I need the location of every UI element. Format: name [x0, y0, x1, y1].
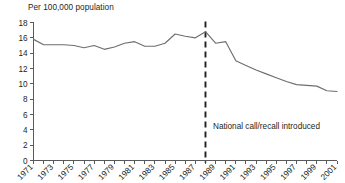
data-series-line: [34, 32, 338, 92]
x-tick-label: 1999: [299, 162, 319, 182]
y-tick-label: 4: [23, 126, 28, 135]
y-tick-label: 8: [23, 95, 28, 104]
x-tick-label: 1973: [36, 162, 56, 182]
x-tick-label: 1971: [16, 162, 36, 182]
x-tick-label: 1979: [97, 162, 117, 182]
x-tick-label: 1981: [117, 162, 137, 182]
x-tick-label: 1997: [279, 162, 299, 182]
y-axis: 024681012141618: [18, 19, 33, 166]
y-tick-label: 18: [18, 19, 28, 28]
annotation-national-call-recall: National call/recall introduced: [213, 122, 320, 131]
x-tick-label: 1991: [218, 162, 238, 182]
x-tick-label: 1977: [76, 162, 96, 182]
chart-plot-area: 024681012141618 197119731975197719791981…: [0, 0, 345, 183]
line-chart: Per 100,000 population 024681012141618 1…: [0, 0, 345, 183]
x-axis: 1971197319751977197919811983198519871989…: [16, 161, 339, 182]
x-tick-label: 1983: [137, 162, 157, 182]
x-tick-label: 1995: [258, 162, 278, 182]
x-tick-label: 1989: [198, 162, 218, 182]
x-tick-label: 1993: [238, 162, 258, 182]
y-tick-label: 14: [18, 49, 28, 58]
y-tick-label: 10: [18, 80, 28, 89]
x-tick-label: 1985: [157, 162, 177, 182]
x-tick-label: 1975: [56, 162, 76, 182]
y-tick-label: 2: [23, 141, 28, 150]
x-tick-label: 2001: [319, 162, 339, 182]
x-tick-label: 1987: [178, 162, 198, 182]
y-tick-label: 16: [18, 34, 28, 43]
y-tick-label: 6: [23, 111, 28, 120]
y-tick-label: 12: [18, 65, 28, 74]
